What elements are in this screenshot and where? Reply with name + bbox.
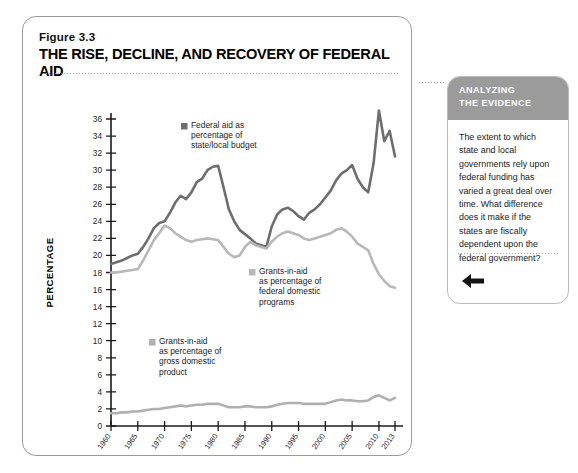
y-axis-tick-label: 26 (93, 199, 103, 209)
panel-body-text: The extent to which state and local gove… (448, 120, 568, 265)
y-axis-tick-label: 4 (97, 387, 102, 397)
y-axis-tick-label: 24 (93, 216, 103, 226)
title-divider (39, 72, 399, 74)
legend-label-0: state/local budget (191, 140, 257, 150)
y-axis-tick-label: 2 (97, 404, 102, 414)
y-axis-tick-label: 34 (93, 131, 103, 141)
x-axis-tick-label: 1970 (149, 432, 166, 451)
legend-label-1: federal domestic (259, 286, 320, 296)
panel-divider (457, 252, 560, 254)
panel-header-line1: ANALYZING (459, 84, 568, 97)
y-axis-tick-label: 16 (93, 285, 103, 295)
left-arrow-icon[interactable] (460, 271, 486, 291)
chart-plot-area: 0246810121416182022242628303234361960196… (23, 79, 412, 456)
x-axis-tick-label: 2010 (363, 432, 380, 451)
y-axis-tick-label: 6 (97, 370, 102, 380)
x-axis-tick-label: 1980 (203, 432, 220, 451)
x-axis-tick-label: 2013 (380, 432, 397, 451)
page-title: THE RISE, DECLINE, AND RECOVERY OF FEDER… (39, 46, 399, 80)
series-line-2 (111, 395, 395, 413)
y-axis-tick-label: 22 (93, 233, 103, 243)
x-axis-tick-label: 1990 (256, 432, 273, 451)
panel-header-line2: THE EVIDENCE (459, 97, 568, 110)
legend-swatch-2 (149, 339, 156, 346)
legend-label-2: Grants-in-aid (159, 336, 208, 346)
y-axis-tick-label: 12 (93, 319, 103, 329)
panel-connector-dots (418, 81, 444, 83)
legend-label-1: as percentage of (259, 276, 322, 286)
y-axis-tick-label: 8 (97, 353, 102, 363)
line-chart: 0246810121416182022242628303234361960196… (23, 79, 412, 456)
x-axis-tick-label: 1965 (122, 432, 139, 451)
x-axis-tick-label: 2005 (337, 432, 354, 451)
figure-card: Figure 3.3 THE RISE, DECLINE, AND RECOVE… (22, 16, 412, 456)
y-axis-tick-label: 30 (93, 165, 103, 175)
x-axis-tick-label: 1985 (230, 432, 247, 451)
analyzing-the-evidence-panel: ANALYZING THE EVIDENCE The extent to whi… (447, 76, 569, 304)
x-axis-tick-label: 2000 (310, 432, 327, 451)
y-axis-tick-label: 32 (93, 148, 103, 158)
y-axis-title: PERCENTAGE (44, 237, 55, 307)
y-axis-tick-label: 36 (93, 114, 103, 124)
legend-swatch-1 (249, 269, 256, 276)
x-axis-tick-label: 1960 (96, 432, 113, 451)
legend-label-2: as percentage of (159, 346, 222, 356)
panel-header: ANALYZING THE EVIDENCE (448, 77, 568, 120)
y-axis-tick-label: 18 (93, 268, 103, 278)
x-axis-tick-label: 1995 (283, 432, 300, 451)
legend-label-2: product (159, 367, 188, 377)
y-axis-tick-label: 14 (93, 302, 103, 312)
legend-label-1: programs (259, 297, 294, 307)
legend-label-0: Federal aid as (191, 120, 244, 130)
x-axis-tick-label: 1975 (176, 432, 193, 451)
series-line-1 (111, 226, 395, 288)
legend-label-2: gross domestic (159, 356, 215, 366)
y-axis-tick-label: 0 (97, 421, 102, 431)
y-axis-tick-label: 10 (93, 336, 103, 346)
legend-label-1: Grants-in-aid (259, 266, 308, 276)
y-axis-tick-label: 20 (93, 250, 103, 260)
figure-number: Figure 3.3 (39, 31, 95, 43)
y-axis-tick-label: 28 (93, 182, 103, 192)
legend-label-0: percentage of (191, 130, 243, 140)
legend-swatch-0 (181, 123, 188, 130)
